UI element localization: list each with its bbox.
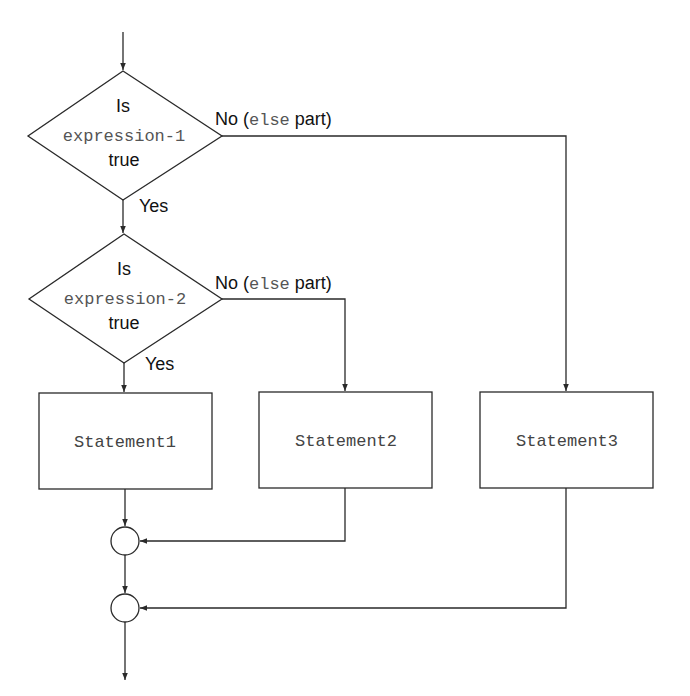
decision-1-expression: expression-1 <box>63 127 185 146</box>
decision-1: Is expression-1 true <box>28 71 222 200</box>
decision-2-yes-label: Yes <box>145 354 174 374</box>
decision-2: Is expression-2 true <box>29 234 222 363</box>
statement-3-out-arrow <box>140 488 566 608</box>
join-connector-1 <box>111 527 139 555</box>
statement-2-out-arrow <box>140 488 345 541</box>
decision-1-no-label: No (else part) <box>215 109 332 130</box>
decision-1-line3: true <box>108 150 139 170</box>
join-connector-2 <box>111 594 139 622</box>
no-path-1 <box>222 136 566 391</box>
statement-3-label: Statement3 <box>516 432 618 451</box>
decision-2-line3: true <box>108 313 139 333</box>
statement-2-box: Statement2 <box>259 392 432 488</box>
statement-2-label: Statement2 <box>295 432 397 451</box>
statement-1-box: Statement1 <box>39 393 212 489</box>
statement-3-box: Statement3 <box>480 392 653 488</box>
decision-2-line1: Is <box>117 259 131 279</box>
decision-1-yes-label: Yes <box>139 196 168 216</box>
decision-2-no-label: No (else part) <box>215 273 332 294</box>
decision-1-line1: Is <box>116 96 130 116</box>
flowchart-canvas: Is expression-1 true No (else part) Yes … <box>0 0 690 696</box>
statement-1-label: Statement1 <box>74 433 176 452</box>
decision-2-expression: expression-2 <box>64 290 186 309</box>
no-path-2 <box>222 299 345 391</box>
